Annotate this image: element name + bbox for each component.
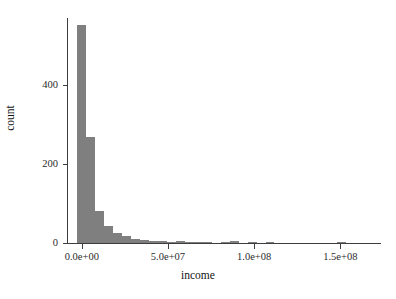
histogram-bar	[86, 137, 95, 243]
histogram-bar	[104, 226, 113, 243]
x-tick-mark	[254, 244, 255, 249]
histogram-bar	[122, 236, 131, 243]
x-tick-label: 5.0e+07	[151, 252, 185, 263]
y-tick-label: 200	[42, 159, 58, 170]
histogram-chart: 0200400 0.0e+005.0e+071.0e+081.5e+08 inc…	[0, 0, 396, 299]
x-axis-line	[67, 243, 381, 244]
y-tick-mark	[63, 164, 68, 165]
plot-panel	[68, 18, 380, 243]
histogram-bar	[77, 25, 86, 243]
histogram-bar	[113, 233, 122, 243]
y-tick-mark	[63, 85, 68, 86]
histogram-bars	[68, 18, 380, 243]
x-tick-label: 1.0e+08	[237, 252, 271, 263]
x-tick-mark	[340, 244, 341, 249]
histogram-bar	[95, 211, 104, 243]
y-axis-line	[67, 18, 68, 244]
y-axis-title: count	[4, 68, 16, 168]
y-tick-label: 0	[53, 238, 58, 249]
y-tick-label: 400	[42, 80, 58, 91]
x-tick-label: 0.0e+00	[65, 252, 99, 263]
y-tick-mark	[63, 243, 68, 244]
x-tick-mark	[82, 244, 83, 249]
x-tick-label: 1.5e+08	[323, 252, 357, 263]
x-tick-mark	[168, 244, 169, 249]
x-axis-title: income	[0, 269, 396, 281]
